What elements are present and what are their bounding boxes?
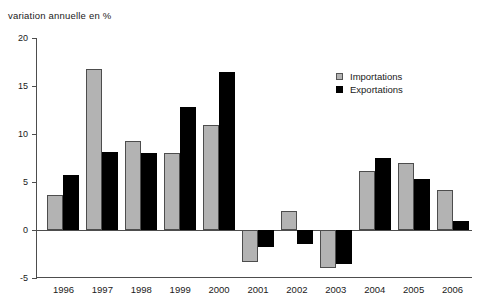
x-axis-label: 1998 <box>122 284 161 295</box>
bar-exportations <box>336 230 352 264</box>
y-tick-mark <box>32 230 37 231</box>
x-axis-label: 1999 <box>161 284 200 295</box>
bar-importations <box>203 125 219 230</box>
y-axis-line <box>36 38 37 278</box>
bar-importations <box>242 230 258 262</box>
bar-exportations <box>219 72 235 230</box>
bar-importations <box>437 190 453 230</box>
y-tick-mark <box>32 86 37 87</box>
x-axis-label: 2004 <box>355 284 394 295</box>
y-tick-mark <box>32 38 37 39</box>
y-tick-label: 10 <box>18 129 28 139</box>
x-axis-label: 1996 <box>44 284 83 295</box>
bar-exportations <box>258 230 274 247</box>
y-tick-label: 20 <box>18 33 28 43</box>
x-axis-label: 2000 <box>200 284 239 295</box>
x-axis-label: 2001 <box>239 284 278 295</box>
y-tick-mark <box>32 182 37 183</box>
x-axis-label: 2005 <box>394 284 433 295</box>
legend-swatch-exports-icon <box>336 86 343 93</box>
bar-exportations <box>141 153 157 230</box>
y-tick-label: 5 <box>23 177 28 187</box>
bar-importations <box>125 141 141 230</box>
y-tick-label: 15 <box>18 81 28 91</box>
bar-exportations <box>63 175 79 230</box>
bar-exportations <box>453 221 469 230</box>
x-axis-label: 1997 <box>83 284 122 295</box>
legend-swatch-imports-icon <box>336 73 343 80</box>
y-tick-label: 0 <box>23 225 28 235</box>
plot-area: 20151050-5 19961997199819992000200120022… <box>36 38 472 278</box>
x-axis-label: 2003 <box>316 284 355 295</box>
bar-exportations <box>375 158 391 230</box>
y-tick-label: -5 <box>20 273 28 283</box>
bar-group <box>242 38 274 278</box>
legend-item: Exportations <box>336 83 403 96</box>
bar-importations <box>359 171 375 230</box>
bar-exportations <box>414 179 430 230</box>
chart-title: variation annuelle en % <box>8 10 111 21</box>
bar-group <box>281 38 313 278</box>
bar-chart: variation annuelle en % 20151050-5 19961… <box>0 0 479 307</box>
bar-group <box>437 38 469 278</box>
chart-legend: ImportationsExportations <box>336 70 403 96</box>
bar-importations <box>47 195 63 230</box>
bar-importations <box>398 163 414 230</box>
bar-group <box>203 38 235 278</box>
legend-item: Importations <box>336 70 403 83</box>
bar-exportations <box>102 152 118 230</box>
bar-importations <box>164 153 180 230</box>
y-tick-mark <box>32 134 37 135</box>
bar-group <box>125 38 157 278</box>
x-axis-label: 2002 <box>277 284 316 295</box>
bar-exportations <box>180 107 196 230</box>
y-tick-mark <box>32 278 37 279</box>
bar-exportations <box>297 230 313 244</box>
legend-label: Importations <box>350 71 402 82</box>
bar-group <box>164 38 196 278</box>
bar-importations <box>281 211 297 230</box>
x-axis-label: 2006 <box>433 284 472 295</box>
bar-group <box>47 38 79 278</box>
bar-importations <box>86 69 102 230</box>
legend-label: Exportations <box>350 84 403 95</box>
bar-group <box>86 38 118 278</box>
bar-importations <box>320 230 336 268</box>
